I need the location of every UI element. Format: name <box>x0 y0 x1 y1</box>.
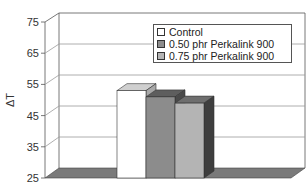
y-tick-label: 65 <box>27 47 39 59</box>
y-tick-label: 75 <box>27 16 39 28</box>
legend-swatch-050 <box>157 40 165 48</box>
y-tick-label: 25 <box>27 172 39 184</box>
legend-swatch-control <box>157 28 165 36</box>
legend-item-050: 0.50 phr Perkalink 900 <box>157 38 291 50</box>
legend-label: 0.50 phr Perkalink 900 <box>169 38 274 50</box>
legend-label: 0.75 phr Perkalink 900 <box>169 50 274 62</box>
bar-3 <box>175 96 214 178</box>
legend-item-075: 0.75 phr Perkalink 900 <box>157 50 291 62</box>
y-tick-label: 45 <box>27 110 39 122</box>
legend-item-control: Control <box>157 26 291 38</box>
legend: Control 0.50 phr Perkalink 900 0.75 phr … <box>153 24 292 63</box>
legend-label: Control <box>169 26 203 38</box>
y-axis-ticks: 253545556575 <box>27 16 45 184</box>
y-axis-title: ΔT <box>4 93 16 107</box>
y-tick-label: 35 <box>27 141 39 153</box>
legend-swatch-075 <box>157 52 165 60</box>
y-tick-label: 55 <box>27 78 39 90</box>
bar-group <box>117 84 214 178</box>
